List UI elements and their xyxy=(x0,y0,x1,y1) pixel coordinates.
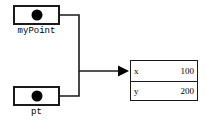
pointer-diagram: myPoint pt x 100 y 200 xyxy=(0,0,206,123)
field-name-y: y xyxy=(134,86,139,96)
object-box: x 100 y 200 xyxy=(130,60,198,101)
object-field-row: x 100 xyxy=(131,61,197,81)
filled-dot-icon xyxy=(31,91,42,102)
filled-dot-icon xyxy=(31,10,42,21)
reference-label-pt: pt xyxy=(13,107,60,118)
reference-label-mypoint: myPoint xyxy=(13,26,60,37)
object-field-row: y 200 xyxy=(131,81,197,101)
field-value-y: 200 xyxy=(181,86,195,96)
field-name-x: x xyxy=(134,66,139,76)
arrowhead-icon xyxy=(118,66,129,77)
field-value-x: 100 xyxy=(181,66,195,76)
reference-box-pt xyxy=(13,86,60,106)
reference-box-mypoint xyxy=(13,5,60,25)
